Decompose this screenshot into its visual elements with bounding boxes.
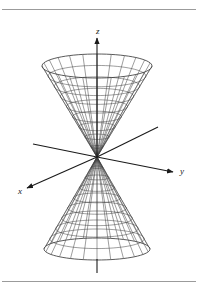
y-axis-label: y	[179, 166, 184, 176]
z-axis-label: z	[95, 26, 100, 36]
figure-frame: z y x	[0, 0, 198, 292]
x-axis	[27, 157, 97, 188]
y-axis	[97, 157, 173, 172]
y-axis-back	[33, 144, 97, 157]
double-cone-figure: z y x	[0, 0, 198, 292]
x-axis-label: x	[17, 186, 22, 196]
